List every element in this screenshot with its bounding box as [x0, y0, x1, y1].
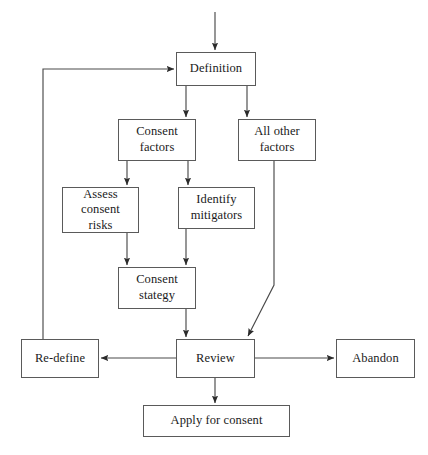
flowchart-canvas: Definition Consent factors All other fac… [0, 0, 428, 455]
node-all-other-factors[interactable]: All other factors [238, 119, 316, 161]
node-apply-for-consent-label: Apply for consent [168, 413, 266, 429]
node-re-define[interactable]: Re-define [21, 339, 99, 378]
node-identify-mitigators-label: Identify mitigators [188, 192, 246, 223]
node-definition-label: Definition [187, 61, 245, 77]
node-definition[interactable]: Definition [176, 52, 256, 86]
node-consent-stategy[interactable]: Consent stategy [118, 267, 196, 309]
node-consent-factors-label: Consent factors [133, 124, 181, 155]
node-assess-consent-risks-label: Assess consent risks [78, 187, 123, 234]
node-abandon[interactable]: Abandon [336, 339, 415, 378]
node-review[interactable]: Review [176, 339, 255, 378]
node-abandon-label: Abandon [349, 351, 402, 367]
node-identify-mitigators[interactable]: Identify mitigators [178, 187, 255, 229]
node-all-other-factors-label: All other factors [251, 124, 303, 155]
node-re-define-label: Re-define [32, 351, 88, 367]
node-apply-for-consent[interactable]: Apply for consent [143, 405, 290, 437]
node-consent-stategy-label: Consent stategy [133, 272, 181, 303]
node-assess-consent-risks[interactable]: Assess consent risks [62, 187, 139, 233]
node-review-label: Review [193, 351, 238, 367]
node-consent-factors[interactable]: Consent factors [118, 119, 196, 161]
